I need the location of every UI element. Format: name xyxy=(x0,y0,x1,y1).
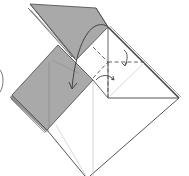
top-flap xyxy=(28,4,108,60)
partial-step-bracket xyxy=(0,70,3,92)
origami-diagram xyxy=(0,0,189,176)
diagram-canvas xyxy=(0,0,189,176)
